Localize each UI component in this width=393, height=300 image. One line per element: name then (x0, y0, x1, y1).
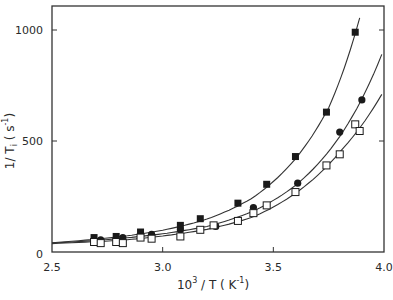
fit-curves (52, 18, 382, 244)
filled-square-marker (323, 109, 330, 116)
filled-square-marker (263, 181, 270, 188)
x-axis-label: 103 / T ( K-1) (177, 276, 249, 292)
open-square-marker (148, 235, 155, 242)
fit-curve (52, 18, 360, 243)
open-square-marker (292, 189, 299, 196)
open-square-marker (352, 121, 359, 128)
filled-circle-marker (177, 226, 184, 233)
x-tick-label: 3.5 (265, 261, 283, 274)
fit-curve (52, 94, 382, 243)
open-square-marker (210, 222, 217, 229)
y-axis-label: 1/ Ti ( s-1) (1, 113, 19, 169)
open-square-marker (323, 162, 330, 169)
x-tick-label: 3.0 (154, 261, 172, 274)
x-tick-label: 4.0 (375, 261, 393, 274)
filled-circle-marker (294, 180, 301, 187)
open-square-marker (177, 233, 184, 240)
open-square-marker (263, 202, 270, 209)
open-square-marker (197, 226, 204, 233)
open-square-marker (137, 234, 144, 241)
y-tick-label: 500 (22, 135, 43, 148)
open-square-marker (97, 240, 104, 247)
open-square-marker (91, 239, 98, 246)
axis-ticks: 2.53.03.54.005001000 (15, 24, 393, 274)
y-tick-label: 1000 (15, 24, 43, 37)
filled-square-marker (352, 29, 359, 36)
open-square-marker (250, 210, 257, 217)
x-tick-label: 2.5 (43, 261, 61, 274)
filled-circle-marker (358, 96, 365, 103)
open-square-marker (234, 217, 241, 224)
filled-square-marker (197, 215, 204, 222)
filled-square-marker (292, 153, 299, 160)
y-tick-label: 0 (36, 248, 43, 261)
filled-circle-marker (336, 129, 343, 136)
filled-square-marker (234, 200, 241, 207)
open-square-marker (113, 239, 120, 246)
open-square-marker (119, 240, 126, 247)
open-square-marker (356, 128, 363, 135)
data-markers (91, 29, 366, 247)
open-square-marker (336, 151, 343, 158)
chart: 2.53.03.54.005001000 103 / T ( K-1) 1/ T… (0, 0, 393, 300)
